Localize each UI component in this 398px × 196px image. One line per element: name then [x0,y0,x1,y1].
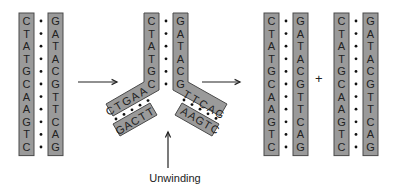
hydrogen-bond-dot [191,103,194,106]
svg-text:G: G [176,78,185,90]
base: C [268,78,276,90]
svg-text:A: A [148,40,156,52]
base: G [51,141,60,153]
base: C [23,78,31,90]
svg-text:T: T [148,53,155,65]
arrow-right-icon [202,79,240,84]
hydrogen-bond-dot [355,20,358,23]
hydrogen-bond-dot [285,108,288,111]
base: T [52,91,59,103]
hydrogen-bond-dot [40,133,43,136]
base: A [338,91,346,103]
base: C [52,65,60,77]
base: G [366,141,375,153]
base: C [268,141,276,153]
svg-text:T: T [148,28,155,40]
hydrogen-bond-dot [40,32,43,35]
svg-text:A: A [177,53,185,65]
hydrogen-bond-dot [115,118,118,121]
unwinding-label: Unwinding [140,172,210,184]
base: T [52,103,59,115]
base: G [51,15,60,27]
base: A [23,40,31,52]
base: T [23,128,30,140]
svg-text:A: A [177,28,185,40]
hydrogen-bond-dot [355,146,358,149]
base: A [268,40,276,52]
svg-text:G: G [147,65,156,77]
base: G [296,15,305,27]
base: T [23,53,30,65]
hydrogen-bond-dot [131,108,134,111]
svg-text:G: G [176,15,185,27]
hydrogen-bond-dot [285,70,288,73]
base: A [268,91,276,103]
base: T [23,28,30,40]
hydrogen-bond-dot [207,112,210,115]
base: C [338,78,346,90]
svg-text:T: T [177,40,184,52]
base: G [267,65,276,77]
base: A [338,103,346,115]
base: G [296,141,305,153]
hydrogen-bond-dot [355,45,358,48]
hydrogen-bond-dot [355,108,358,111]
hydrogen-bond-dot [355,70,358,73]
base: T [52,40,59,52]
base: C [23,141,31,153]
base: A [297,128,305,140]
hydrogen-bond-dot [40,146,43,149]
hydrogen-bond-dot [165,20,168,23]
hydrogen-bond-dot [40,70,43,73]
base: G [337,116,346,128]
base: A [52,128,60,140]
hydrogen-bond-dot [40,20,43,23]
hydrogen-bond-dot [40,57,43,60]
base: A [52,53,60,65]
product-duplex-2: CGTAATTAGCCGATATGCTACG [334,13,378,156]
hydrogen-bond-dot [165,70,168,73]
hydrogen-bond-dot [139,104,142,107]
base: T [338,128,345,140]
dna-replication-diagram: CGTAATTAGCCGATATGCTACGCGTAATTAGCCGATATGC… [0,0,398,196]
hydrogen-bond-dot [285,120,288,123]
base: A [23,91,31,103]
base: T [297,103,304,115]
hydrogen-bond-dot [165,83,168,86]
original-duplex: CGTAATTAGCCGATATGCTACG [19,13,63,156]
base: A [367,53,375,65]
base: C [297,116,305,128]
base: T [268,28,275,40]
base: T [268,128,275,140]
hydrogen-bond-dot [355,133,358,136]
base: C [367,65,375,77]
base: C [52,116,60,128]
base: A [52,28,60,40]
base: T [367,103,374,115]
hydrogen-bond-dot [183,99,186,102]
hydrogen-bond-dot [40,45,43,48]
hydrogen-bond-dot [285,133,288,136]
base: T [367,40,374,52]
hydrogen-bond-dot [165,45,168,48]
base: A [338,40,346,52]
hydrogen-bond-dot [165,57,168,60]
base: C [338,141,346,153]
base: G [22,65,31,77]
base: T [297,40,304,52]
base: G [267,116,276,128]
base: A [23,103,31,115]
hydrogen-bond-dot [285,146,288,149]
hydrogen-bond-dot [355,32,358,35]
hydrogen-bond-dot [355,57,358,60]
hydrogen-bond-dot [40,95,43,98]
product-duplex-1: CGTAATTAGCCGATATGCTACG [264,13,308,156]
svg-text:C: C [148,78,156,90]
base: A [297,28,305,40]
base: C [268,15,276,27]
base: T [338,53,345,65]
arrow-right-icon [78,79,117,84]
base: G [366,78,375,90]
hydrogen-bond-dot [355,120,358,123]
hydrogen-bond-dot [355,95,358,98]
